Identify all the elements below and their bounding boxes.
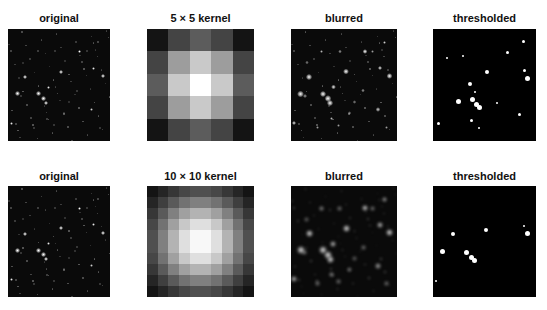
- kernel-cell: [168, 253, 179, 264]
- kernel-cell: [222, 208, 233, 219]
- noise-speck: [356, 237, 358, 239]
- kernel-cell: [222, 275, 233, 286]
- noise-speck: [60, 204, 62, 206]
- kernel-cell: [243, 208, 254, 219]
- noise-speck: [22, 247, 24, 249]
- star: [20, 95, 22, 97]
- star: [320, 50, 324, 54]
- panel-title: thresholded: [433, 12, 536, 24]
- noise-speck: [333, 66, 335, 68]
- starfield-image: [8, 186, 110, 297]
- kernel-cell: [233, 119, 254, 141]
- kernel-cell: [168, 275, 179, 286]
- noise-speck: [82, 277, 84, 279]
- noise-speck: [298, 279, 300, 281]
- star: [20, 252, 22, 254]
- noise-speck: [37, 138, 39, 140]
- star: [44, 257, 48, 261]
- noise-speck: [376, 245, 378, 247]
- star: [329, 272, 334, 277]
- noise-speck: [15, 123, 17, 125]
- noise-speck: [329, 53, 331, 55]
- kernel-cell: [190, 286, 201, 297]
- star: [23, 75, 27, 79]
- kernel-image: [147, 186, 254, 297]
- noise-speck: [55, 243, 57, 245]
- panel-title: blurred: [291, 170, 397, 182]
- noise-speck: [365, 212, 367, 214]
- panel-original: original: [8, 12, 110, 141]
- noise-speck: [372, 232, 374, 234]
- star: [387, 73, 393, 79]
- kernel-cell: [211, 74, 232, 96]
- kernel-cell: [168, 230, 179, 241]
- noise-speck: [373, 134, 375, 136]
- kernel-cell: [190, 253, 201, 264]
- star: [472, 258, 477, 263]
- noise-speck: [380, 102, 382, 104]
- noise-speck: [94, 258, 96, 260]
- noise-speck: [356, 81, 358, 83]
- starfield-image: [433, 29, 536, 141]
- starfield-image: [8, 29, 110, 141]
- star: [36, 91, 41, 96]
- kernel-cell: [147, 230, 158, 241]
- noise-speck: [82, 121, 84, 123]
- noise-speck: [57, 93, 59, 95]
- noise-speck: [95, 206, 97, 208]
- kernel-cell: [147, 253, 158, 264]
- kernel-cell: [233, 186, 244, 197]
- kernel-cell: [168, 219, 179, 230]
- star: [343, 225, 350, 232]
- star: [36, 248, 41, 253]
- kernel-cell: [233, 74, 254, 96]
- noise-speck: [373, 290, 375, 292]
- kernel-cell: [200, 264, 211, 275]
- star: [101, 231, 105, 235]
- kernel-cell: [211, 197, 222, 208]
- noise-speck: [15, 279, 17, 281]
- star: [478, 127, 480, 129]
- noise-speck: [303, 137, 305, 139]
- panel-thresholded10: thresholded: [433, 170, 536, 297]
- kernel-cell: [211, 119, 232, 141]
- star: [319, 206, 324, 211]
- noise-speck: [369, 225, 371, 227]
- noise-speck: [298, 123, 300, 125]
- noise-speck: [301, 286, 303, 288]
- noise-speck: [94, 102, 96, 104]
- noise-speck: [64, 217, 66, 219]
- noise-speck: [368, 277, 370, 279]
- noise-speck: [48, 119, 50, 121]
- kernel-cell: [168, 264, 179, 275]
- noise-speck: [354, 230, 356, 232]
- noise-speck: [377, 193, 379, 195]
- noise-speck: [337, 288, 339, 290]
- star: [347, 267, 352, 272]
- noise-speck: [93, 42, 95, 44]
- kernel-cell: [211, 242, 222, 253]
- star: [303, 94, 307, 98]
- star: [462, 55, 464, 57]
- star: [78, 207, 81, 210]
- star: [525, 76, 530, 81]
- noise-speck: [97, 213, 99, 215]
- noise-speck: [291, 44, 293, 46]
- kernel-cell: [147, 186, 158, 197]
- noise-speck: [364, 107, 366, 109]
- noise-speck: [330, 112, 332, 114]
- noise-speck: [337, 132, 339, 134]
- kernel-cell: [233, 96, 254, 118]
- noise-speck: [291, 200, 293, 202]
- kernel-cell: [190, 230, 201, 241]
- noise-speck: [333, 223, 335, 225]
- noise-speck: [309, 45, 311, 47]
- kernel-cell: [168, 96, 189, 118]
- noise-speck: [344, 100, 346, 102]
- noise-speck: [71, 296, 73, 297]
- kernel-cell: [211, 286, 222, 297]
- star: [22, 218, 24, 220]
- noise-speck: [383, 213, 385, 215]
- noise-speck: [105, 239, 107, 241]
- noise-speck: [101, 226, 103, 228]
